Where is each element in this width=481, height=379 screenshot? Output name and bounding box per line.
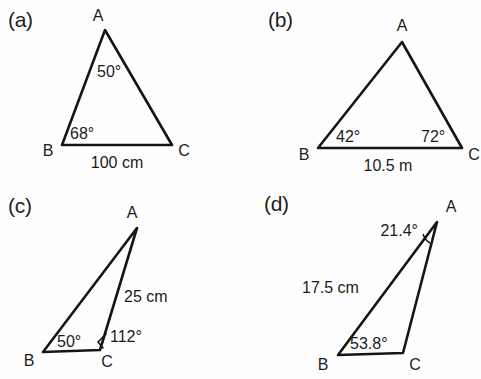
panel-b-side-BC: 10.5 m [364, 157, 413, 174]
panel-a-diagram: A B C 50° 68° 100 cm [0, 0, 240, 190]
panel-a-side-BC: 100 cm [91, 154, 143, 171]
panel-d-vertex-label-B: B [318, 356, 329, 373]
panel-a-angle-A: 50° [97, 63, 121, 80]
triangle-figure-sheet: (a) A B C 50° 68° 100 cm (b) A B C 42° 7… [0, 0, 481, 379]
panel-c-vertex-label-B: B [24, 352, 35, 369]
panel-d-angle-B: 53.8° [350, 335, 388, 352]
panel-d-angle-A: 21.4° [380, 222, 418, 239]
panel-b-vertex-label-C: C [468, 146, 480, 163]
panel-a: (a) A B C 50° 68° 100 cm [0, 0, 240, 190]
panel-c-side-AC: 25 cm [124, 288, 168, 305]
panel-a-vertex-label-C: C [178, 142, 190, 159]
panel-c: (c) A B C 50° 112° 25 cm [0, 190, 240, 379]
panel-d-vertex-label-A: A [446, 198, 457, 215]
panel-c-diagram: A B C 50° 112° 25 cm [0, 190, 240, 379]
panel-c-vertex-label-C: C [101, 353, 113, 370]
panel-c-vertex-label-A: A [127, 204, 138, 221]
panel-a-vertex-label-B: B [43, 142, 54, 159]
panel-a-angle-B: 68° [70, 125, 94, 142]
panel-b-vertex-label-B: B [299, 146, 310, 163]
panel-d-side-AB: 17.5 cm [302, 279, 359, 296]
panel-c-angle-C: 112° [110, 328, 142, 345]
panel-d: (d) A B C 21.4° 53.8° 17.5 cm [240, 190, 481, 379]
panel-b-diagram: A B C 42° 72° 10.5 m [240, 0, 481, 190]
panel-b-vertex-label-A: A [397, 17, 408, 34]
panel-b: (b) A B C 42° 72° 10.5 m [240, 0, 481, 190]
panel-d-diagram: A B C 21.4° 53.8° 17.5 cm [240, 190, 481, 379]
panel-d-vertex-label-C: C [409, 356, 421, 373]
panel-c-angle-B: 50° [57, 333, 81, 350]
panel-b-angle-B: 42° [336, 128, 360, 145]
panel-a-vertex-label-A: A [93, 7, 104, 24]
panel-b-angle-C: 72° [421, 128, 445, 145]
